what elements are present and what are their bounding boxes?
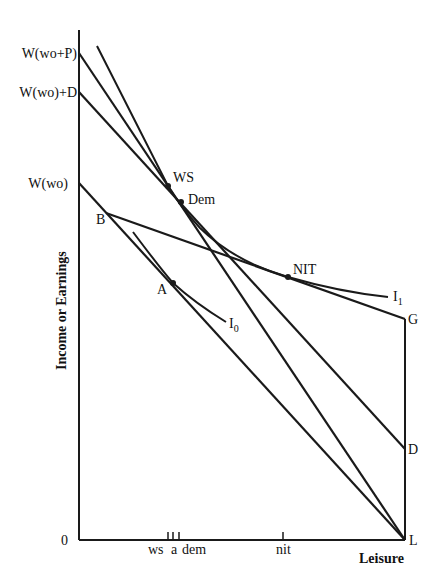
y-axis-title: Income or Earnings [54, 251, 69, 370]
label-w-wo: W(wo) [28, 176, 68, 192]
point-nit [285, 274, 291, 280]
point-dem [178, 199, 184, 205]
budget-line-base [79, 183, 405, 540]
label-b: B [96, 212, 105, 227]
label-tick-ws: ws [148, 542, 164, 557]
label-w-wo-p: W(wo+P) [22, 46, 78, 62]
label-i0: I0 [229, 316, 239, 334]
label-w-wo-d: W(wo)+D [19, 85, 77, 101]
label-tick-a: a [171, 542, 178, 557]
label-d: D [408, 442, 418, 457]
budget-line-wage-subsidy [79, 53, 405, 540]
indifference-curve-i0 [133, 232, 226, 322]
label-l: L [409, 533, 418, 548]
label-ws: WS [173, 170, 194, 185]
label-a: A [157, 282, 168, 297]
labor-supply-diagram: W(wo+P) W(wo)+D W(wo) 0 Income or Earnin… [0, 0, 443, 585]
label-i1: I1 [393, 289, 403, 307]
label-nit: NIT [293, 262, 317, 277]
point-a [170, 280, 176, 286]
label-tick-dem: dem [182, 542, 206, 557]
indifference-curve-i1 [97, 46, 388, 297]
label-g: G [408, 312, 418, 327]
x-axis-title: Leisure [359, 551, 404, 566]
label-tick-nit: nit [276, 542, 291, 557]
point-ws [165, 183, 171, 189]
budget-line-demogrant [79, 92, 405, 449]
label-dem: Dem [188, 192, 215, 207]
label-origin: 0 [61, 533, 68, 548]
